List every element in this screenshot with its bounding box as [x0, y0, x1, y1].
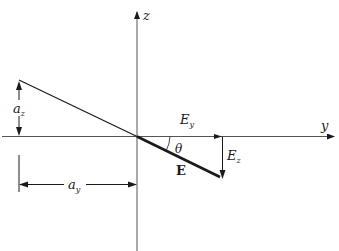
y-axis-label: y: [320, 118, 329, 133]
ey-component: Ey: [179, 112, 222, 139]
e-vector-label: E: [176, 163, 186, 178]
angle-arc: [166, 137, 170, 152]
ez-component: Ez: [220, 137, 242, 180]
ey-label: Ey: [179, 112, 195, 129]
dimension-ay: ay: [19, 155, 137, 194]
direction-line: [19, 80, 137, 137]
theta-label: θ: [175, 142, 183, 156]
y-axis: y: [2, 118, 334, 137]
vector-diagram: z y az ay E θ Ey Ez: [0, 0, 339, 251]
ez-label: Ez: [226, 148, 242, 165]
z-axis: z: [137, 8, 150, 251]
dimension-az: az: [11, 81, 29, 136]
z-axis-label: z: [142, 8, 150, 23]
